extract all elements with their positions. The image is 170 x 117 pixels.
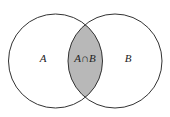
venn-diagram: A A∩B B — [0, 0, 170, 117]
set-a-label: A — [39, 52, 47, 64]
set-b-label: B — [125, 52, 132, 64]
intersection-label: A∩B — [73, 52, 96, 64]
